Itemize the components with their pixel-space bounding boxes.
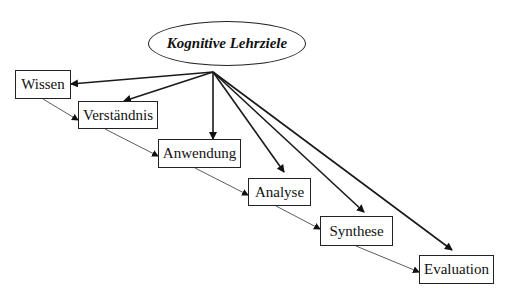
node-verstaendnis: Verständnis [78,101,158,129]
arrow-anwendung-analyse [195,168,248,195]
node-synthese: Synthese [320,216,393,246]
node-wissen: Wissen [15,70,71,99]
arrow-synthese-evaluation [356,246,419,272]
arrow-root-wissen [71,72,213,84]
arrow-wissen-verstaendnis [43,99,78,120]
arrow-verstaendnis-anwendung [105,129,158,156]
node-anwendung: Anwendung [158,139,241,168]
root-node-kognitive-lehrziele: Kognitive Lehrziele [148,21,306,66]
node-analyse: Analyse [248,178,311,206]
arrow-analyse-synthese [276,206,320,229]
node-evaluation: Evaluation [419,255,494,284]
